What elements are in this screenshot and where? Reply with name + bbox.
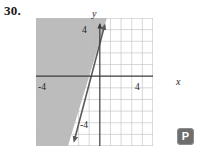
- problem-number-label: 30.: [4, 3, 21, 19]
- exercise-figure-page: 30.: [0, 0, 201, 161]
- x-axis-tick-4: 4: [135, 82, 140, 92]
- y-axis-label: y: [92, 8, 96, 19]
- y-axis-tick-negative-4: -4: [80, 120, 88, 130]
- x-axis-tick-negative-4: -4: [38, 82, 46, 92]
- page-badge-letter: P: [177, 128, 194, 145]
- y-axis-tick-4: 4: [82, 25, 87, 35]
- x-axis-label: x: [176, 76, 180, 87]
- page-badge[interactable]: P: [177, 128, 194, 145]
